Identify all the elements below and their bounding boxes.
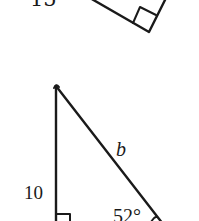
hypotenuse [56,86,163,221]
bottom-right-angle-marker [56,214,70,221]
top-right-angle-marker [133,7,156,23]
top-triangle [90,0,166,32]
angle-arc [150,217,157,221]
bottom-triangle [54,85,163,221]
geometry-figure: 15 10 b 52° [0,0,199,221]
angle-label-52: 52° [113,206,141,221]
side-label-15: 15 [30,0,57,10]
side-label-10: 10 [24,183,43,202]
hypotenuse-label-b: b [116,139,126,159]
top-triangle-legs [90,0,166,32]
